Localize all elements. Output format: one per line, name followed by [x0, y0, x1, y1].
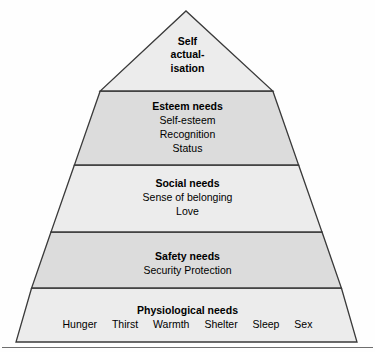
pyramid-tier-physiological-shape [16, 288, 357, 342]
pyramid-tier-safety-shape [32, 232, 342, 288]
pyramid-tier-esteem-shape [74, 91, 298, 165]
maslow-pyramid-diagram: Self actual- isation Esteem needs Self-e… [0, 0, 375, 352]
pyramid-tier-social-shape [51, 165, 322, 232]
pyramid-tier-self-actualisation-shape [100, 11, 273, 91]
pyramid-geometry [0, 0, 375, 352]
